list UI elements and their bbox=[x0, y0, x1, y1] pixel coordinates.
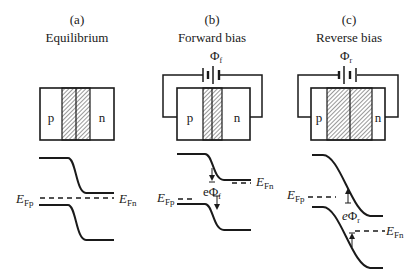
panel-b-letter: (b) bbox=[204, 12, 219, 27]
panel-a-title: Equilibrium bbox=[46, 30, 109, 45]
valence-band-a bbox=[39, 205, 114, 240]
fermi-label-p-c: EFp bbox=[286, 187, 305, 204]
p-region-label-a: p bbox=[48, 110, 55, 125]
energy-shift-label-c: eΦr bbox=[342, 208, 360, 225]
fermi-label-n-c: EFn bbox=[385, 223, 404, 240]
junction-block-a: p n bbox=[40, 88, 114, 140]
p-region-label-b: p bbox=[187, 110, 194, 125]
panel-forward-bias: (b) Forward bias Φf p n bbox=[156, 12, 274, 230]
panel-a-letter: (a) bbox=[70, 12, 84, 27]
conduction-band-a bbox=[39, 158, 114, 193]
n-region-label-a: n bbox=[99, 110, 106, 125]
voltage-label-b: Φf bbox=[210, 48, 223, 65]
junction-block-b: p n bbox=[177, 88, 250, 140]
band-diagram-a bbox=[39, 158, 114, 240]
voltage-label-c: Φr bbox=[340, 48, 353, 65]
n-region-label-b: n bbox=[234, 110, 241, 125]
conduction-band-b bbox=[177, 154, 251, 180]
fermi-label-p-a: EFp bbox=[15, 191, 34, 208]
panel-c-letter: (c) bbox=[342, 12, 356, 27]
fermi-label-n-a: EFn bbox=[118, 191, 137, 208]
fermi-label-p-b: EFp bbox=[156, 190, 175, 207]
junction-block-c: p n bbox=[311, 88, 385, 140]
panel-c-title: Reverse bias bbox=[316, 30, 382, 45]
valence-band-b bbox=[177, 204, 251, 230]
p-region-label-c: p bbox=[316, 110, 323, 125]
panel-equilibrium: (a) Equilibrium p n EFp EFn bbox=[15, 12, 137, 240]
fermi-label-n-b: EFn bbox=[255, 174, 274, 191]
energy-shift-label-b: eΦf bbox=[203, 184, 221, 201]
panel-b-title: Forward bias bbox=[178, 30, 246, 45]
n-region-label-c: n bbox=[375, 110, 382, 125]
panel-reverse-bias: (c) Reverse bias Φr p n bbox=[286, 12, 404, 268]
pn-junction-diagram: (a) Equilibrium p n EFp EFn (b) Forward … bbox=[0, 0, 418, 280]
